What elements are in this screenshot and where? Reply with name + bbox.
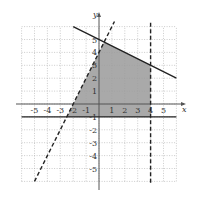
x-tick-label: 2 bbox=[122, 106, 127, 115]
y-tick-label: 1 bbox=[92, 87, 97, 96]
x-tick-label: -3 bbox=[56, 106, 64, 115]
x-tick-label: 1 bbox=[109, 106, 114, 115]
x-tick-label: -2 bbox=[69, 106, 77, 115]
y-tick-label: -3 bbox=[89, 139, 97, 148]
y-tick-label: -4 bbox=[89, 152, 97, 161]
y-tick-label: 3 bbox=[92, 61, 97, 70]
x-tick-label: -4 bbox=[44, 106, 52, 115]
y-tick-label: -5 bbox=[89, 165, 97, 174]
y-tick-label: -1 bbox=[89, 113, 97, 122]
x-axis-label: x bbox=[182, 105, 187, 114]
y-axis-label: y bbox=[92, 10, 98, 19]
y-tick-label: 2 bbox=[92, 74, 97, 83]
y-axis-arrow bbox=[97, 12, 101, 17]
inequality-graph: x y -5-4-3-2-11234554321-1-2-3-4-5 bbox=[0, 0, 198, 197]
x-tick-label: -5 bbox=[31, 106, 39, 115]
y-tick-label: 5 bbox=[92, 36, 97, 45]
x-tick-label: 4 bbox=[148, 106, 153, 115]
x-tick-label: 5 bbox=[161, 106, 166, 115]
y-tick-label: 4 bbox=[92, 48, 97, 57]
y-tick-label: -2 bbox=[89, 126, 97, 135]
x-tick-label: 3 bbox=[135, 106, 140, 115]
